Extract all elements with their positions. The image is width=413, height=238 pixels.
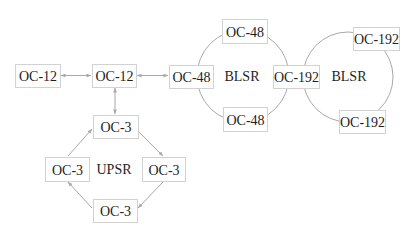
network-diagram: BLSR BLSR UPSR OC-12 OC-12 OC-48 OC-48 O… (0, 0, 413, 238)
edge-upsr-top-right (137, 130, 163, 156)
edge-upsr-left-top (68, 129, 92, 156)
svg-text:OC-12: OC-12 (19, 69, 57, 84)
svg-text:OC-48: OC-48 (172, 70, 210, 85)
svg-text:OC-3: OC-3 (148, 163, 179, 178)
node-oc12-a: OC-12 (16, 65, 61, 88)
node-oc192-middle: OC-192 (274, 66, 320, 89)
node-oc192-top: OC-192 (354, 28, 400, 51)
svg-text:OC-3: OC-3 (100, 120, 131, 135)
node-oc48-left: OC-48 (170, 66, 214, 89)
node-oc3-top: OC-3 (94, 116, 139, 139)
node-oc192-bottom: OC-192 (340, 111, 386, 134)
node-oc48-top: OC-48 (223, 20, 268, 44)
edge-upsr-right-bottom (138, 182, 163, 208)
node-oc12-b: OC-12 (93, 65, 137, 88)
svg-text:OC-48: OC-48 (226, 113, 264, 128)
node-oc3-bottom: OC-3 (94, 200, 138, 223)
blsr-label-1: BLSR (224, 69, 260, 84)
node-oc48-bottom: OC-48 (224, 108, 268, 132)
svg-text:OC-48: OC-48 (226, 25, 264, 40)
svg-text:OC-3: OC-3 (52, 163, 83, 178)
blsr-label-2: BLSR (331, 69, 367, 84)
edge-upsr-bottom-left (68, 182, 92, 208)
svg-text:OC-3: OC-3 (100, 204, 131, 219)
svg-text:OC-12: OC-12 (95, 69, 133, 84)
node-oc3-left: OC-3 (46, 158, 90, 182)
svg-text:OC-192: OC-192 (354, 32, 399, 47)
node-oc3-right: OC-3 (143, 158, 186, 182)
upsr-label: UPSR (96, 162, 132, 177)
svg-text:OC-192: OC-192 (340, 115, 385, 130)
svg-text:OC-192: OC-192 (274, 70, 319, 85)
